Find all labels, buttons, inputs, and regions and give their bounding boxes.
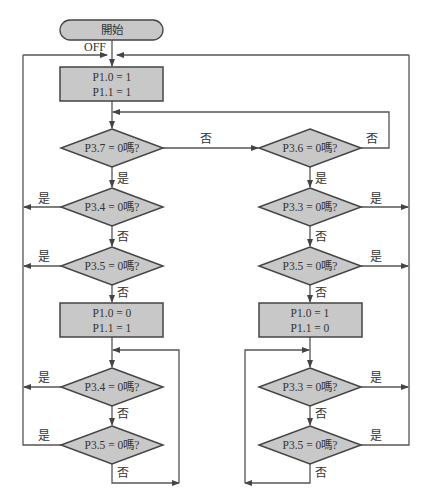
- box1-line1: P1.0 = 1: [93, 71, 132, 83]
- decision-p35-c-label: P3.5 = 0嗎?: [85, 439, 140, 451]
- decision-p35-a-label: P3.5 = 0嗎?: [85, 260, 140, 272]
- decision-p33-a-label: P3.3 = 0嗎?: [283, 201, 338, 213]
- start-label: 開始: [101, 23, 124, 36]
- edge-yes-d4: 是: [38, 250, 50, 264]
- edge-yes-d3: 是: [38, 192, 50, 206]
- edge-no-d7: 否: [117, 407, 129, 421]
- decision-p34-a-label: P3.4 = 0嗎?: [85, 201, 140, 213]
- decision-p35-b-label: P3.5 = 0嗎?: [283, 260, 338, 272]
- edge-yes-d8: 是: [38, 429, 50, 443]
- decision-p35-d-label: P3.5 = 0嗎?: [283, 439, 338, 451]
- edge-no-d3: 否: [117, 230, 129, 244]
- edge-no-d9: 否: [315, 407, 327, 421]
- edge-yes-d6: 是: [370, 250, 382, 264]
- edge-yes-d9: 是: [370, 371, 382, 385]
- edge-yes-d10: 是: [370, 429, 382, 443]
- edge-no-d5: 否: [315, 230, 327, 244]
- off-label: OFF: [84, 40, 106, 54]
- box2-line2: P1.1 = 1: [93, 322, 132, 334]
- decision-p33-b-label: P3.3 = 0嗎?: [283, 381, 338, 393]
- box2-line1: P1.0 = 0: [93, 307, 132, 319]
- decision-p34-b-label: P3.4 = 0嗎?: [85, 381, 140, 393]
- edge-yes-d5: 是: [370, 192, 382, 206]
- edge-no-d10: 否: [315, 466, 327, 480]
- edge-no-d8: 否: [117, 466, 129, 480]
- edge-yes-d1: 是: [117, 172, 129, 186]
- edge-no-d4: 否: [117, 286, 129, 300]
- edge-no-d1: 否: [200, 132, 212, 146]
- box3-line1: P1.0 = 1: [291, 307, 330, 319]
- flowchart: 開始 P1.0 = 1 P1.1 = 1 P1.0 = 0 P1.1 = 1 P…: [0, 0, 429, 504]
- decision-p37-label: P3.7 = 0嗎?: [85, 142, 140, 154]
- decision-p36-label: P3.6 = 0嗎?: [283, 142, 338, 154]
- edge-yes-d7: 是: [38, 371, 50, 385]
- edge-no-d6: 否: [315, 286, 327, 300]
- box3-line2: P1.1 = 0: [291, 322, 330, 334]
- edge-no-d2: 否: [366, 132, 378, 146]
- box1-line2: P1.1 = 1: [93, 86, 132, 98]
- edge-yes-d2: 是: [315, 172, 327, 186]
